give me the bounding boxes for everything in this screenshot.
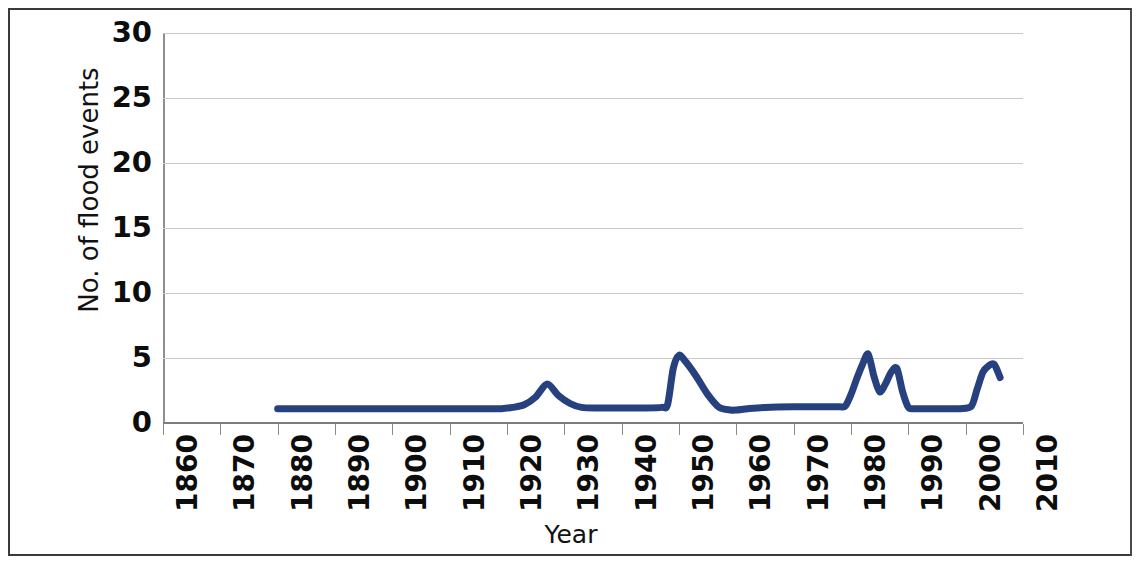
gridline-25 xyxy=(163,98,1023,99)
y-tick-label-20: 20 xyxy=(92,148,152,177)
y-tick-label-30: 30 xyxy=(92,18,152,47)
x-tick-1880 xyxy=(278,424,279,435)
x-tick-1970 xyxy=(794,424,795,435)
x-tick-1950 xyxy=(679,424,680,435)
x-tick-1900 xyxy=(392,424,393,435)
y-tick-label-0: 0 xyxy=(92,408,152,437)
x-tick-label-1950: 1950 xyxy=(690,434,718,512)
x-tick-1890 xyxy=(335,424,336,435)
x-tick-1980 xyxy=(851,424,852,435)
x-tick-1940 xyxy=(622,424,623,435)
x-tick-label-1970: 1970 xyxy=(805,434,833,512)
x-tick-label-1930: 1930 xyxy=(575,434,603,512)
x-tick-label-1900: 1900 xyxy=(403,434,431,512)
gridline-15 xyxy=(163,228,1023,229)
x-tick-label-1980: 1980 xyxy=(862,434,890,512)
x-tick-2010 xyxy=(1023,424,1024,435)
x-tick-label-1910: 1910 xyxy=(461,434,489,512)
x-axis-line xyxy=(163,422,1023,424)
gridline-20 xyxy=(163,163,1023,164)
y-axis-tick-labels: 051015202530 xyxy=(92,0,152,563)
chart-page: No. of flood events 051015202530 1860187… xyxy=(0,0,1142,563)
gridline-5 xyxy=(163,358,1023,359)
x-tick-label-1990: 1990 xyxy=(919,434,947,512)
x-tick-1930 xyxy=(564,424,565,435)
gridline-10 xyxy=(163,293,1023,294)
y-tick-label-25: 25 xyxy=(92,83,152,112)
x-axis-title: Year xyxy=(0,520,1142,549)
x-tick-label-1940: 1940 xyxy=(633,434,661,512)
x-tick-1990 xyxy=(908,424,909,435)
x-tick-2000 xyxy=(966,424,967,435)
x-tick-label-1890: 1890 xyxy=(346,434,374,512)
x-tick-1960 xyxy=(736,424,737,435)
x-tick-1860 xyxy=(163,424,164,435)
line-chart: No. of flood events 051015202530 1860187… xyxy=(0,0,1142,563)
x-tick-label-1880: 1880 xyxy=(289,434,317,512)
x-tick-label-2010: 2010 xyxy=(1034,434,1062,512)
x-tick-label-1920: 1920 xyxy=(518,434,546,512)
x-tick-1870 xyxy=(220,424,221,435)
x-tick-1910 xyxy=(450,424,451,435)
y-tick-label-10: 10 xyxy=(92,278,152,307)
x-tick-label-2000: 2000 xyxy=(977,434,1005,512)
x-tick-label-1860: 1860 xyxy=(174,434,202,512)
series-line-flood-events xyxy=(278,354,1000,410)
gridline-30 xyxy=(163,33,1023,34)
x-tick-1920 xyxy=(507,424,508,435)
y-tick-label-5: 5 xyxy=(92,343,152,372)
x-tick-label-1960: 1960 xyxy=(747,434,775,512)
x-tick-label-1870: 1870 xyxy=(231,434,259,512)
y-tick-label-15: 15 xyxy=(92,213,152,242)
